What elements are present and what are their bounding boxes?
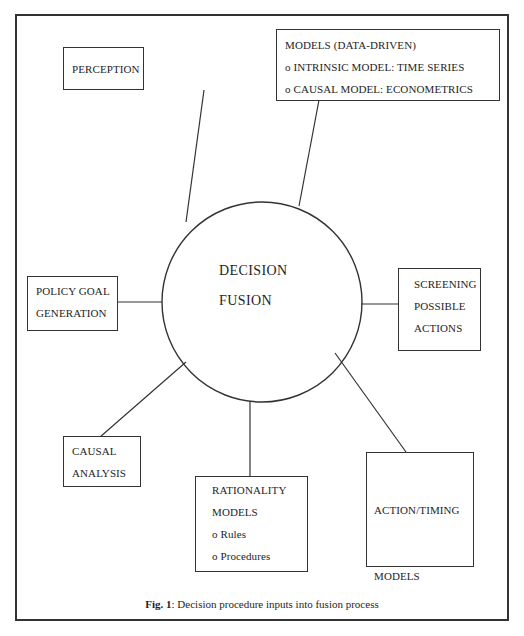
node-line: POSSIBLE (414, 295, 472, 317)
link-perception (186, 90, 204, 222)
node-line: ACTIONS (414, 317, 472, 339)
node-line: MODELS (374, 565, 465, 587)
node-action-timing-models: ACTION/TIMING MODELS o TECHNICAL ANALYSI… (366, 452, 474, 567)
link-models (299, 100, 319, 206)
node-rationality-models: RATIONALITY MODELS o Rules o Procedures (195, 476, 308, 572)
figure-caption: Fig. 1: Decision procedure inputs into f… (0, 598, 524, 610)
center-line-1: DECISION (219, 256, 288, 286)
node-line: GENERATION (36, 302, 109, 324)
node-line: RATIONALITY (212, 479, 299, 501)
caption-text: : Decision procedure inputs into fusion … (172, 598, 379, 610)
node-line: PERCEPTION (72, 58, 135, 80)
node-line: ACTION/TIMING (374, 499, 465, 521)
node-line: MODELS (212, 501, 299, 523)
node-line: o Procedures (212, 545, 299, 567)
node-line: POLICY GOAL (36, 280, 109, 302)
node-line: o CAUSAL MODEL: ECONOMETRICS (285, 78, 491, 100)
node-policy-goal-generation: POLICY GOAL GENERATION (27, 276, 118, 331)
node-line: o Rules (212, 523, 299, 545)
link-action-timing (335, 353, 406, 452)
node-models: MODELS (DATA-DRIVEN) o INTRINSIC MODEL: … (276, 29, 500, 101)
node-line: CAUSAL (72, 440, 132, 462)
node-line: SCREENING (414, 273, 472, 295)
node-line: o INTRINSIC MODEL: TIME SERIES (285, 56, 491, 78)
node-line: MODELS (DATA-DRIVEN) (285, 34, 491, 56)
node-perception: PERCEPTION (63, 47, 144, 90)
node-line: o TECHNICAL (374, 631, 465, 636)
link-causal (100, 362, 186, 437)
center-line-2: FUSION (219, 286, 288, 316)
node-line: ANALYSIS (72, 462, 132, 484)
node-screening-possible-actions: SCREENING POSSIBLE ACTIONS (398, 268, 481, 351)
caption-label: Fig. 1 (145, 598, 171, 610)
node-causal-analysis: CAUSAL ANALYSIS (63, 436, 141, 487)
center-label: DECISION FUSION (219, 256, 288, 316)
